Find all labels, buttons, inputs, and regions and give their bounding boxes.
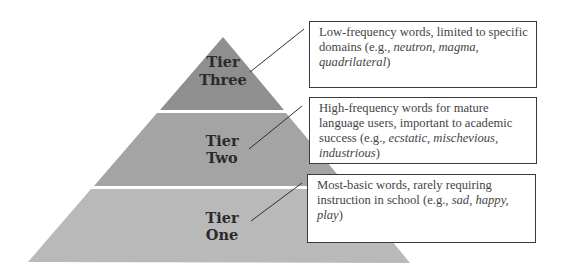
tier-two-description-end: ) (376, 146, 380, 160)
tier-three-label-line2: Three (199, 71, 246, 88)
tier-two-label-line1: Tier (205, 132, 239, 149)
tier-two-label-line2: Two (206, 149, 238, 166)
tier-one-description-end: ) (339, 208, 343, 222)
tier-one-label-line2: One (206, 226, 238, 243)
tier-two-description: High-frequency words for mature language… (309, 97, 537, 164)
tier-one-description: Most-basic words, rarely requiring instr… (307, 174, 536, 243)
tier-one-label-line1: Tier (205, 209, 239, 226)
connector-line-tier-three (250, 29, 304, 72)
tier-three-description-end: ) (386, 55, 390, 69)
tier-three-description: Low-frequency words, limited to specific… (309, 21, 537, 88)
tier-three-label-line1: Tier (206, 53, 240, 70)
